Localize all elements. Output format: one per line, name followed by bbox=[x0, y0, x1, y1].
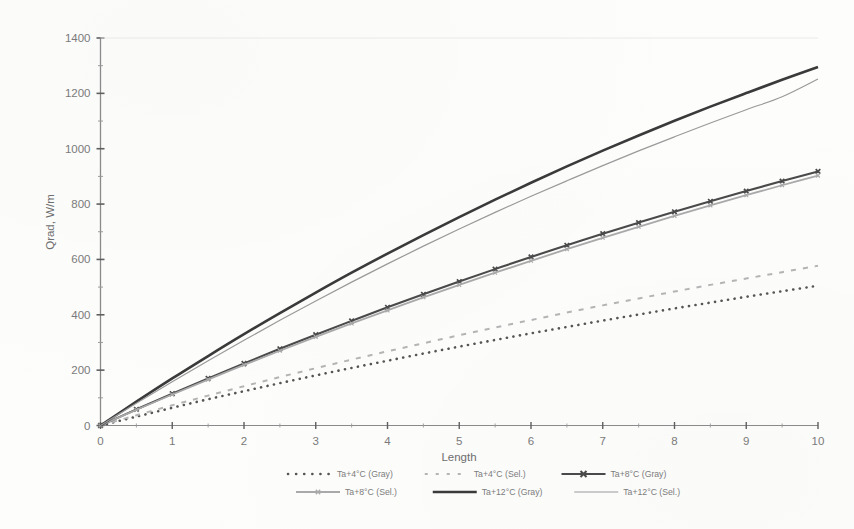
x-axis-title: Length bbox=[441, 451, 476, 463]
legend-swatch bbox=[296, 490, 340, 494]
legend-label: Ta+12°C (Sel.) bbox=[623, 487, 680, 497]
y-tick-label: 1400 bbox=[65, 32, 91, 44]
y-tick-group: 0200400600800100012001400 bbox=[65, 32, 818, 432]
legend-label: Ta+12°C (Gray) bbox=[482, 487, 543, 497]
data-series-group bbox=[98, 67, 820, 428]
chart-canvas: 0200400600800100012001400 012345678910 L… bbox=[0, 0, 854, 529]
x-tick-label: 7 bbox=[600, 435, 606, 447]
x-tick-label: 4 bbox=[384, 435, 391, 447]
y-tick-label: 600 bbox=[71, 253, 90, 265]
series-line bbox=[101, 171, 819, 425]
x-tick-label: 3 bbox=[313, 435, 319, 447]
series-5 bbox=[101, 79, 819, 426]
chart-figure: 0200400600800100012001400 012345678910 L… bbox=[0, 0, 854, 529]
series-line bbox=[101, 176, 819, 426]
series-line bbox=[101, 67, 819, 425]
legend-item: Ta+12°C (Sel.) bbox=[574, 487, 680, 497]
legend-item: Ta+8°C (Sel.) bbox=[296, 487, 397, 497]
y-tick-label: 200 bbox=[71, 364, 90, 376]
series-line bbox=[101, 79, 819, 426]
x-tick-label: 8 bbox=[671, 435, 677, 447]
legend-item: Ta+12°C (Gray) bbox=[433, 487, 543, 497]
series-2 bbox=[98, 169, 820, 428]
legend-swatch bbox=[562, 471, 606, 477]
legend-label: Ta+8°C (Gray) bbox=[611, 469, 667, 479]
y-tick-label: 1000 bbox=[65, 143, 91, 155]
figure-page: 0200400600800100012001400 012345678910 L… bbox=[0, 0, 854, 529]
legend-item: Ta+8°C (Gray) bbox=[562, 469, 667, 479]
chart-legend: Ta+4°C (Gray)Ta+4°C (Sel.)Ta+8°C (Gray)T… bbox=[288, 469, 680, 497]
y-tick-label: 400 bbox=[71, 309, 90, 321]
x-tick-label: 1 bbox=[169, 435, 175, 447]
legend-item: Ta+4°C (Sel.) bbox=[425, 469, 526, 479]
y-tick-label: 0 bbox=[84, 420, 90, 432]
x-tick-label: 10 bbox=[812, 435, 825, 447]
series-1 bbox=[101, 266, 819, 426]
y-tick-label: 1200 bbox=[65, 87, 91, 99]
x-tick-label: 5 bbox=[456, 435, 462, 447]
legend-label: Ta+4°C (Gray) bbox=[337, 469, 393, 479]
y-tick-label: 800 bbox=[71, 198, 90, 210]
legend-item: Ta+4°C (Gray) bbox=[288, 469, 393, 479]
axes-group bbox=[101, 38, 819, 426]
series-3 bbox=[99, 174, 820, 428]
x-tick-label: 6 bbox=[528, 435, 534, 447]
x-tick-label: 2 bbox=[241, 435, 247, 447]
legend-label: Ta+8°C (Sel.) bbox=[345, 487, 397, 497]
x-tick-label: 9 bbox=[743, 435, 749, 447]
series-line bbox=[101, 266, 819, 426]
y-axis-title: Qrad, W/m bbox=[44, 194, 56, 250]
x-tick-label: 0 bbox=[97, 435, 103, 447]
legend-label: Ta+4°C (Sel.) bbox=[474, 469, 526, 479]
series-4 bbox=[101, 67, 819, 425]
